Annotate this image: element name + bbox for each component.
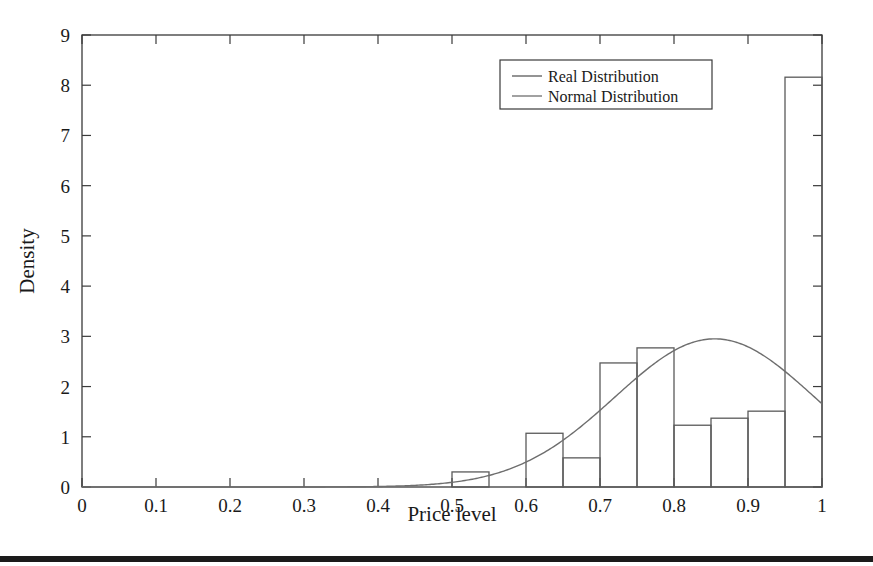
y-tick-label: 0 xyxy=(61,477,71,498)
y-tick-label: 8 xyxy=(61,75,71,96)
y-tick-label: 3 xyxy=(61,326,71,347)
figure-canvas: 0123456789 00.10.20.30.40.50.60.70.80.91… xyxy=(0,0,873,566)
density-histogram-chart: 0123456789 00.10.20.30.40.50.60.70.80.91… xyxy=(0,0,873,566)
y-tick-label: 5 xyxy=(61,226,71,247)
x-tick-label: 0.1 xyxy=(144,495,168,516)
y-axis-label: Density xyxy=(15,228,39,294)
x-tick-label: 0 xyxy=(77,495,87,516)
x-tick-label: 0.6 xyxy=(514,495,538,516)
x-tick-label: 0.4 xyxy=(366,495,390,516)
x-tick-label: 0.8 xyxy=(662,495,686,516)
y-tick-label: 1 xyxy=(61,427,71,448)
y-tick-label: 9 xyxy=(61,25,71,46)
page-bottom-rule xyxy=(0,556,873,562)
chart-legend[interactable]: Real Distribution Normal Distribution xyxy=(500,60,712,109)
y-tick-label: 6 xyxy=(61,176,71,197)
x-tick-label: 1 xyxy=(817,495,827,516)
legend-label-normal-distribution: Normal Distribution xyxy=(548,88,678,105)
x-tick-label: 0.7 xyxy=(588,495,612,516)
y-tick-label: 4 xyxy=(61,276,71,297)
x-tick-label: 0.3 xyxy=(292,495,316,516)
y-tick-label: 2 xyxy=(61,377,71,398)
x-tick-label: 0.2 xyxy=(218,495,242,516)
x-tick-label: 0.9 xyxy=(736,495,760,516)
y-tick-label: 7 xyxy=(61,125,71,146)
legend-label-real-distribution: Real Distribution xyxy=(548,68,659,85)
x-axis-label: Price level xyxy=(407,502,496,526)
